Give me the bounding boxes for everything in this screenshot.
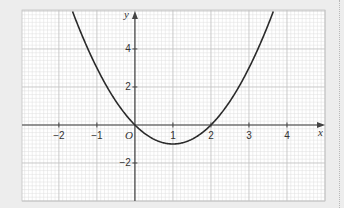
origin-label: O: [125, 129, 133, 141]
chart-plot: x y O −2−1123442−2: [0, 0, 344, 208]
x-tick-label: 1: [170, 130, 176, 141]
x-axis-label: x: [317, 126, 323, 138]
x-tick-label: −2: [53, 130, 65, 141]
y-tick-label: −2: [120, 157, 132, 168]
x-tick-label: 4: [284, 130, 290, 141]
y-tick-label: 2: [125, 81, 131, 92]
x-tick-label: 2: [208, 130, 214, 141]
x-tick-label: −1: [91, 130, 103, 141]
x-tick-label: 3: [246, 130, 252, 141]
y-axis-label: y: [123, 8, 129, 20]
y-tick-label: 4: [125, 43, 131, 54]
dotted-border: [339, 0, 340, 208]
